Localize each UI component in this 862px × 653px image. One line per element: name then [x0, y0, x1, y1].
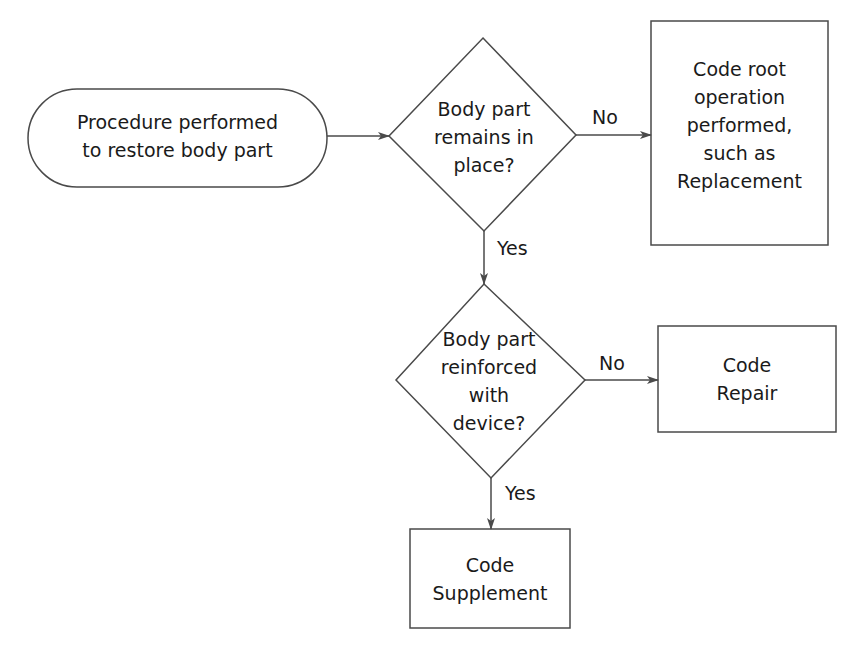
repair-line-1: Code: [658, 351, 836, 379]
decision1-yes-label: Yes: [497, 237, 528, 259]
decision2-label: Body part reinforced with device?: [414, 325, 564, 437]
decision1-line-3: place?: [404, 151, 564, 179]
root-operation-label: Code root operation performed, such as R…: [651, 55, 828, 195]
supplement-label: Code Supplement: [410, 551, 570, 607]
decision2-line-2: reinforced: [414, 353, 564, 381]
root-operation-line-2: operation: [651, 83, 828, 111]
root-operation-line-3: performed,: [651, 111, 828, 139]
supplement-line-1: Code: [410, 551, 570, 579]
root-operation-line-4: such as: [651, 139, 828, 167]
decision1-line-2: remains in: [404, 123, 564, 151]
repair-line-2: Repair: [658, 379, 836, 407]
decision2-line-3: with: [414, 381, 564, 409]
decision1-label: Body part remains in place?: [404, 95, 564, 179]
decision2-line-4: device?: [414, 409, 564, 437]
decision2-line-1: Body part: [414, 325, 564, 353]
start-node-line-1: Procedure performed: [28, 108, 327, 136]
root-operation-line-1: Code root: [651, 55, 828, 83]
decision2-no-label: No: [599, 352, 625, 374]
start-node-line-2: to restore body part: [28, 136, 327, 164]
supplement-line-2: Supplement: [410, 579, 570, 607]
decision1-no-label: No: [592, 106, 618, 128]
start-node-label: Procedure performed to restore body part: [28, 108, 327, 164]
repair-label: Code Repair: [658, 351, 836, 407]
decision1-line-1: Body part: [404, 95, 564, 123]
decision2-yes-label: Yes: [505, 482, 536, 504]
root-operation-line-5: Replacement: [651, 167, 828, 195]
